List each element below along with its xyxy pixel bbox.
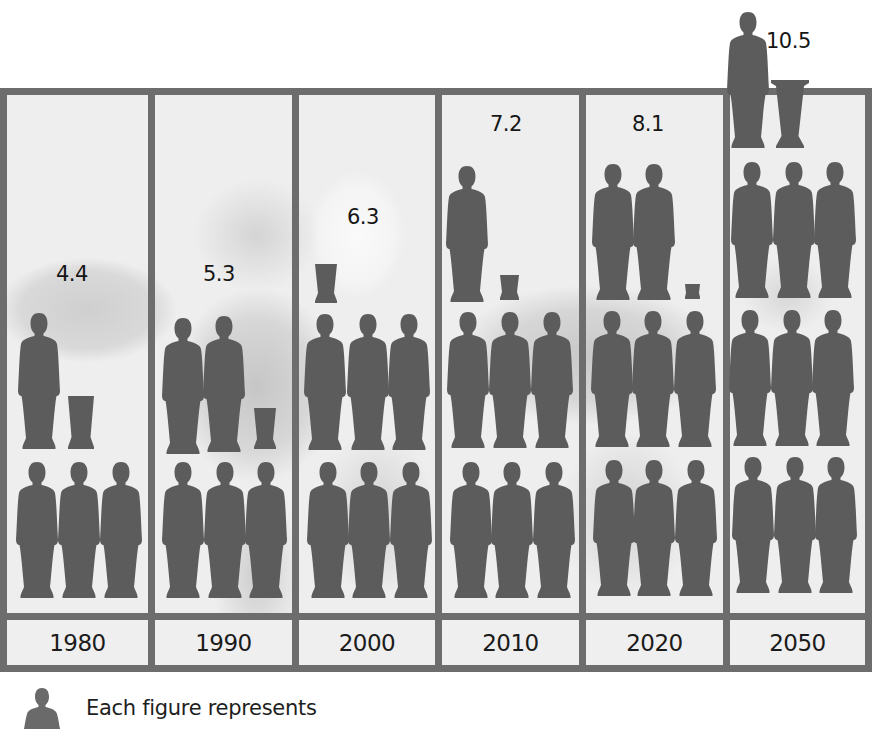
- person-figure-icon: [390, 462, 432, 598]
- person-figure-icon: [245, 462, 287, 598]
- person-figure-icon: [204, 462, 246, 598]
- column-divider: [435, 88, 442, 672]
- person-figure-icon: [203, 316, 245, 452]
- population-pictograph: 1980 1990 2000 2010 2020 2050 4.4 5.3 6.…: [0, 0, 879, 729]
- person-figure-icon: [731, 162, 773, 298]
- person-figure-icon: [162, 318, 204, 454]
- value-label-1980: 4.4: [56, 262, 88, 286]
- person-figure-icon: [593, 460, 635, 596]
- person-figure-icon: [727, 12, 769, 148]
- column-divider: [292, 88, 299, 672]
- person-figure-icon: [58, 462, 100, 598]
- person-figure-icon: [447, 312, 489, 448]
- year-label-2050: 2050: [730, 620, 865, 665]
- partial-figure-icon: [254, 408, 276, 449]
- partial-figure-icon: [685, 284, 700, 299]
- person-figure-icon: [773, 162, 815, 298]
- person-figure-icon: [348, 462, 390, 598]
- person-figure-icon: [814, 162, 856, 298]
- person-figure-icon: [812, 310, 854, 446]
- person-figure-icon: [307, 462, 349, 598]
- year-label-2000: 2000: [299, 620, 435, 665]
- person-figure-icon: [16, 462, 58, 598]
- person-figure-icon: [531, 312, 573, 448]
- value-label-2010: 7.2: [490, 112, 522, 136]
- person-figure-icon: [732, 457, 774, 593]
- person-figure-icon: [347, 314, 389, 450]
- person-figure-icon: [675, 460, 717, 596]
- year-label-1990: 1990: [155, 620, 292, 665]
- year-label-2020: 2020: [586, 620, 723, 665]
- person-figure-icon: [489, 312, 531, 448]
- legend: Each figure represents: [24, 688, 424, 729]
- person-figure-icon: [450, 462, 492, 598]
- person-figure-icon: [491, 462, 533, 598]
- person-figure-icon: [162, 462, 204, 598]
- column-divider: [579, 88, 586, 672]
- partial-figure-icon: [500, 275, 519, 300]
- partial-figure-icon: [315, 264, 337, 303]
- person-figure-icon: [774, 457, 816, 593]
- person-figure-icon: [100, 462, 142, 598]
- year-label-2010: 2010: [442, 620, 579, 665]
- person-figure-icon: [674, 311, 716, 447]
- person-figure-icon: [388, 314, 430, 450]
- person-figure-icon: [446, 166, 488, 302]
- person-figure-icon: [633, 164, 675, 300]
- person-figure-icon: [592, 164, 634, 300]
- person-figure-icon: [633, 460, 675, 596]
- person-figure-icon: [533, 462, 575, 598]
- partial-figure-icon: [771, 80, 809, 148]
- column-divider: [148, 88, 155, 672]
- legend-text: Each figure represents: [86, 696, 317, 720]
- year-label-1980: 1980: [7, 620, 148, 665]
- person-figure-icon: [24, 688, 60, 729]
- value-label-2050: 10.5: [766, 29, 811, 53]
- person-figure-icon: [591, 311, 633, 447]
- person-figure-icon: [729, 310, 771, 446]
- person-figure-icon: [18, 313, 60, 449]
- value-label-2000: 6.3: [347, 205, 379, 229]
- person-figure-icon: [304, 314, 346, 450]
- person-figure-icon: [771, 310, 813, 446]
- value-label-2020: 8.1: [632, 112, 664, 136]
- person-figure-icon: [632, 311, 674, 447]
- value-label-1990: 5.3: [203, 262, 235, 286]
- year-row-separator: [0, 613, 872, 620]
- person-figure-icon: [815, 457, 857, 593]
- partial-figure-icon: [68, 396, 94, 449]
